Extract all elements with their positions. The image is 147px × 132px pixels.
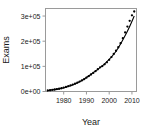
data-point xyxy=(53,88,55,90)
data-point xyxy=(74,83,76,85)
data-point xyxy=(65,86,67,88)
data-point xyxy=(72,83,74,85)
x-axis-tick-labels: 1980199020002010 xyxy=(56,97,140,104)
data-point xyxy=(124,31,126,33)
data-point xyxy=(56,88,58,90)
x-tick-label: 1980 xyxy=(56,97,72,104)
x-axis-title: Year xyxy=(82,117,100,127)
data-point-markers xyxy=(47,10,136,91)
data-point xyxy=(76,82,78,84)
y-tick-label: 1e+05 xyxy=(21,63,41,70)
data-point xyxy=(78,80,80,82)
x-tick-label: 2000 xyxy=(101,97,117,104)
data-point xyxy=(133,10,135,12)
data-point xyxy=(101,65,103,67)
data-point xyxy=(81,79,83,81)
x-tick-label: 2010 xyxy=(124,97,140,104)
data-point xyxy=(58,88,60,90)
data-point xyxy=(110,56,112,58)
data-point xyxy=(119,42,121,44)
data-point xyxy=(129,20,131,22)
y-tick-label: 2e+05 xyxy=(21,38,41,45)
data-point xyxy=(90,73,92,75)
data-point xyxy=(104,63,106,65)
exams-vs-year-scatter-plot: 0e+001e+052e+053e+05 1980199020002010 Ye… xyxy=(0,0,147,132)
data-point xyxy=(49,89,51,91)
data-point xyxy=(131,14,133,16)
data-point xyxy=(113,53,115,55)
data-point xyxy=(108,59,110,61)
data-point xyxy=(51,89,53,91)
data-point xyxy=(83,78,85,80)
data-point xyxy=(88,75,90,77)
data-point xyxy=(67,85,69,87)
data-point xyxy=(94,70,96,72)
data-point xyxy=(92,72,94,74)
data-point xyxy=(63,86,65,88)
y-tick-label: 0e+00 xyxy=(21,88,41,95)
x-tick-label: 1990 xyxy=(79,97,95,104)
data-point xyxy=(115,50,117,52)
data-point xyxy=(99,66,101,68)
fitted-curve-line xyxy=(48,16,134,90)
data-point xyxy=(97,68,99,70)
chart-figure: 0e+001e+052e+053e+05 1980199020002010 Ye… xyxy=(0,0,147,132)
data-point xyxy=(69,84,71,86)
y-tick-label: 3e+05 xyxy=(21,13,41,20)
data-point xyxy=(60,87,62,89)
y-axis-tick-labels: 0e+001e+052e+053e+05 xyxy=(21,13,41,95)
data-point xyxy=(106,61,108,63)
data-point xyxy=(117,46,119,48)
data-point xyxy=(126,25,128,27)
data-point xyxy=(47,89,49,91)
y-axis-title: Exams xyxy=(1,36,11,64)
plot-frame xyxy=(46,9,137,92)
data-point xyxy=(122,37,124,39)
data-point xyxy=(85,77,87,79)
